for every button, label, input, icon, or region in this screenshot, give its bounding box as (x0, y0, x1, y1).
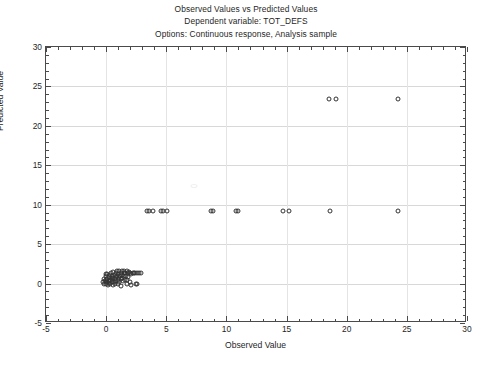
axis-tick (287, 316, 288, 321)
axis-tick (46, 94, 49, 95)
axis-tick (46, 276, 49, 277)
data-point (151, 209, 156, 214)
axis-tick (58, 47, 59, 50)
axis-tick (299, 319, 300, 322)
axis-tick (46, 213, 49, 214)
axis-tick (463, 142, 466, 143)
axis-tick (214, 47, 215, 50)
axis-tick (463, 189, 466, 190)
chart-page: Observed Values vs Predicted Values Depe… (0, 0, 492, 365)
data-point (326, 97, 331, 102)
gridline-vertical (166, 47, 167, 321)
axis-tick (460, 47, 465, 48)
y-tick-label: 25 (33, 82, 42, 90)
axis-tick (82, 47, 83, 50)
axis-tick (407, 47, 408, 52)
axis-tick (263, 47, 264, 50)
axis-tick (202, 319, 203, 322)
axis-tick (463, 79, 466, 80)
chart-options-note: Options: Continuous response, Analysis s… (0, 28, 492, 40)
axis-tick (46, 268, 49, 269)
axis-tick (214, 319, 215, 322)
axis-tick (463, 181, 466, 182)
axis-tick (323, 47, 324, 50)
y-tick-label: 15 (33, 161, 42, 169)
axis-tick (46, 110, 49, 111)
axis-tick (311, 319, 312, 322)
axis-tick (202, 47, 203, 50)
axis-tick (46, 189, 49, 190)
axis-tick (46, 142, 49, 143)
data-point (128, 283, 133, 288)
axis-tick (419, 319, 420, 322)
axis-tick (383, 47, 384, 50)
axis-tick (46, 316, 47, 321)
axis-tick (463, 71, 466, 72)
axis-tick (371, 319, 372, 322)
axis-tick (463, 228, 466, 229)
axis-tick (118, 319, 119, 322)
data-point (333, 97, 338, 102)
axis-tick (463, 110, 466, 111)
axis-tick (46, 55, 49, 56)
x-tick-label: 0 (104, 325, 109, 333)
axis-tick (70, 47, 71, 50)
data-point (211, 209, 216, 214)
axis-tick (250, 319, 251, 322)
axis-tick (130, 47, 131, 50)
x-tick-label: 25 (402, 325, 411, 333)
scan-artifact (191, 184, 198, 188)
y-tick-label: 30 (33, 43, 42, 51)
axis-tick (166, 47, 167, 52)
axis-tick (46, 173, 49, 174)
axis-tick (371, 47, 372, 50)
axis-tick (463, 197, 466, 198)
x-tick-label: -5 (42, 325, 49, 333)
axis-tick (275, 47, 276, 50)
axis-tick (46, 244, 51, 245)
axis-tick (94, 319, 95, 322)
gridline-horizontal (46, 126, 465, 127)
axis-tick (250, 47, 251, 50)
axis-tick (46, 134, 49, 135)
axis-tick (46, 126, 51, 127)
data-point (139, 270, 144, 275)
axis-tick (46, 220, 49, 221)
axis-tick (106, 47, 107, 52)
axis-tick (463, 252, 466, 253)
axis-tick (463, 220, 466, 221)
axis-tick (419, 47, 420, 50)
axis-tick (46, 102, 49, 103)
x-tick-label: 5 (164, 325, 169, 333)
axis-tick (463, 260, 466, 261)
gridline-horizontal (46, 86, 465, 87)
axis-tick (463, 157, 466, 158)
axis-tick (463, 173, 466, 174)
axis-tick (166, 316, 167, 321)
y-tick-label: 20 (33, 122, 42, 130)
y-tick-label: -5 (35, 319, 42, 327)
axis-tick (178, 47, 179, 50)
axis-tick (347, 47, 348, 52)
axis-tick (178, 319, 179, 322)
gridline-vertical (407, 47, 408, 321)
axis-tick (46, 71, 49, 72)
axis-tick (323, 319, 324, 322)
axis-tick (463, 268, 466, 269)
axis-tick (463, 276, 466, 277)
axis-tick (275, 319, 276, 322)
axis-tick (463, 236, 466, 237)
axis-tick (463, 94, 466, 95)
axis-tick (46, 260, 49, 261)
axis-tick (463, 102, 466, 103)
x-tick-label: 15 (282, 325, 291, 333)
axis-tick (383, 319, 384, 322)
gridline-horizontal (46, 205, 465, 206)
axis-tick (335, 47, 336, 50)
y-tick-label: 10 (33, 201, 42, 209)
x-tick-label: 30 (462, 325, 471, 333)
axis-tick (46, 47, 47, 52)
chart-title-block: Observed Values vs Predicted Values Depe… (0, 3, 492, 40)
gridline-vertical (287, 47, 288, 321)
axis-tick (431, 47, 432, 50)
